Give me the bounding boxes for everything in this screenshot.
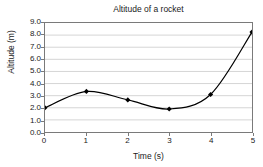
data-series-layer	[45, 23, 252, 132]
y-tick-label: 5.0	[19, 67, 41, 75]
data-point-marker	[167, 106, 172, 111]
y-tick-mark	[41, 108, 44, 109]
y-tick-label: 7.0	[19, 43, 41, 51]
x-tick-mark	[128, 133, 129, 136]
y-tick-label: 2.0	[19, 104, 41, 112]
x-tick-mark	[211, 133, 212, 136]
data-point-marker	[125, 97, 130, 102]
x-tick-label: 2	[118, 136, 138, 145]
data-point-marker	[84, 89, 89, 94]
y-tick-label: 1.0	[19, 117, 41, 125]
x-tick-mark	[44, 133, 45, 136]
y-axis-tick-labels: 0.01.02.03.04.05.06.07.08.09.0	[16, 22, 41, 133]
y-tick-mark	[41, 84, 44, 85]
x-tick-label: 1	[76, 136, 96, 145]
x-axis-tick-labels: 012345	[44, 136, 253, 148]
x-tick-mark	[86, 133, 87, 136]
x-tick-label: 4	[201, 136, 221, 145]
x-tick-mark	[253, 133, 254, 136]
x-tick-label: 3	[159, 136, 179, 145]
y-tick-label: 9.0	[19, 18, 41, 26]
data-point-marker	[45, 105, 48, 110]
x-axis-title: Time (s)	[44, 151, 253, 162]
y-axis-title: Altitude (m)	[6, 14, 16, 90]
y-tick-mark	[41, 22, 44, 23]
y-tick-mark	[41, 34, 44, 35]
x-tick-label: 0	[34, 136, 54, 145]
data-line	[45, 32, 252, 109]
y-tick-mark	[41, 47, 44, 48]
y-tick-mark	[41, 59, 44, 60]
x-tick-label: 5	[243, 136, 263, 145]
y-tick-label: 6.0	[19, 55, 41, 63]
altitude-line-chart: Altitude of a rocket Altitude (m) 0.01.0…	[0, 0, 263, 167]
y-tick-label: 4.0	[19, 80, 41, 88]
plot-area	[44, 22, 253, 133]
y-tick-label: 8.0	[19, 30, 41, 38]
chart-title: Altitude of a rocket	[44, 4, 253, 15]
y-tick-label: 3.0	[19, 92, 41, 100]
x-tick-mark	[169, 133, 170, 136]
y-tick-mark	[41, 96, 44, 97]
y-tick-mark	[41, 121, 44, 122]
y-tick-mark	[41, 71, 44, 72]
